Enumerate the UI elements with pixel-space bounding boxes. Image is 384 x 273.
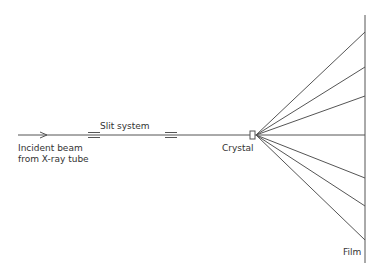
diffracted-ray	[256, 96, 365, 135]
label-crystal: Crystal	[222, 143, 254, 153]
label-slit-system: Slit system	[100, 121, 150, 131]
label-incident-line1: Incident beam	[18, 143, 83, 153]
label-film: Film	[343, 247, 361, 257]
crystal	[250, 131, 255, 139]
diffracted-ray	[256, 135, 365, 178]
diffracted-rays	[256, 32, 365, 240]
diffracted-ray	[256, 32, 365, 135]
diffracted-ray	[256, 135, 365, 240]
diffracted-ray	[256, 135, 365, 206]
xray-diffraction-diagram: Incident beam from X-ray tube Slit syste…	[0, 0, 384, 273]
label-incident-line2: from X-ray tube	[18, 154, 89, 164]
diffracted-ray	[256, 67, 365, 135]
